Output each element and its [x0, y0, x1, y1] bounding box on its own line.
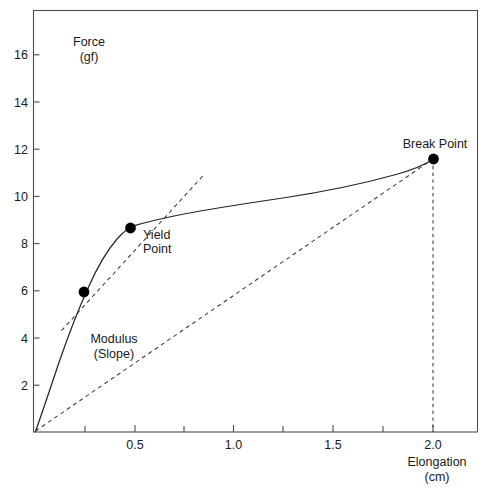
plot-frame — [34, 11, 478, 433]
x-tick-label-2p0: 2.0 — [424, 438, 441, 452]
y-tick-label-2: 2 — [21, 379, 28, 393]
secant-to-break-point-line — [36, 159, 434, 431]
yield-point-annotation-line1: Yield — [143, 228, 170, 242]
x-axis-tick-labels: 0.5 1.0 1.5 2.0 — [126, 438, 441, 452]
modulus-tangent-line — [62, 175, 205, 331]
y-tick-label-8: 8 — [21, 237, 28, 251]
y-tick-label-4: 4 — [21, 332, 28, 346]
x-tick-label-1p0: 1.0 — [225, 438, 242, 452]
stress-strain-figure: 2 4 6 8 10 12 14 16 0.5 1.0 1.5 2.0 — [0, 0, 499, 491]
x-tick-label-1p5: 1.5 — [324, 438, 341, 452]
y-axis-tick-labels: 2 4 6 8 10 12 14 16 — [14, 48, 28, 392]
yield-point-annotation: Yield Point — [143, 228, 172, 257]
y-axis-title: Force (gf) — [73, 35, 105, 64]
yield-point-marker[interactable] — [125, 223, 136, 234]
modulus-annotation-line2: (Slope) — [94, 347, 134, 361]
yield-point-annotation-line2: Point — [143, 242, 172, 256]
modulus-annotation-line1: Modulus — [90, 332, 137, 346]
y-tick-label-16: 16 — [14, 48, 28, 62]
y-axis-ticks — [34, 55, 40, 385]
x-axis-ticks — [85, 425, 433, 432]
break-point-annotation: Break Point — [403, 137, 468, 151]
x-axis-title-line2: (cm) — [425, 470, 450, 484]
y-tick-label-6: 6 — [21, 284, 28, 298]
modulus-annotation: Modulus (Slope) — [90, 332, 137, 361]
y-tick-label-12: 12 — [14, 143, 28, 157]
chart-canvas: 2 4 6 8 10 12 14 16 0.5 1.0 1.5 2.0 — [0, 0, 499, 491]
x-axis-title: Elongation (cm) — [407, 455, 466, 484]
y-tick-label-14: 14 — [14, 96, 28, 110]
break-point-marker[interactable] — [428, 154, 439, 165]
modulus-point-marker[interactable] — [79, 287, 90, 298]
x-tick-label-0p5: 0.5 — [126, 438, 143, 452]
y-tick-label-10: 10 — [14, 190, 28, 204]
x-axis-title-line1: Elongation — [407, 455, 466, 469]
y-axis-title-line2: (gf) — [80, 50, 99, 64]
y-axis-title-line1: Force — [73, 35, 105, 49]
